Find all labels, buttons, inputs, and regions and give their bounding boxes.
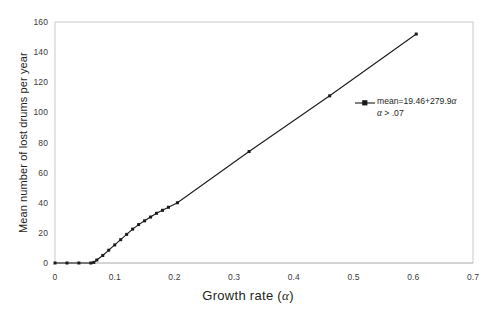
legend-condition-suffix: > .07 [382,108,404,118]
data-point-marker [54,262,57,265]
plot-frame [55,22,473,263]
legend-condition-line: α > .07 [377,108,456,119]
data-point-marker [167,206,170,209]
y-tick-label: 160 [18,17,48,27]
x-tick-label: 0.3 [228,272,240,282]
x-tick-label: 0.2 [168,272,180,282]
legend-equation-text: mean=19.46+279.9α α > .07 [377,96,456,119]
legend-alpha-symbol: α [452,96,457,106]
data-point-marker [137,223,140,226]
legend-equation-prefix: mean=19.46+279.9 [377,96,452,106]
data-point-marker [119,238,122,241]
data-point-marker [77,262,80,265]
x-axis-title: Growth rate (α) [0,288,496,304]
y-tick-label: 0 [18,258,48,268]
data-point-marker [143,219,146,222]
data-point-marker [125,233,128,236]
data-point-marker [65,262,68,265]
data-point-marker [101,254,104,257]
data-point-marker [248,150,251,153]
x-tick-label: 0.1 [109,272,121,282]
data-point-marker [113,243,116,246]
data-point-marker [149,216,152,219]
data-point-marker [155,212,158,215]
x-axis-title-close: ) [289,288,294,303]
series-polyline [55,34,416,263]
data-point-marker [89,262,92,265]
data-point-marker [95,258,98,261]
plot-area [0,0,496,316]
x-axis-title-text: Growth rate ( [202,288,282,303]
x-tick-label: 0 [53,272,58,282]
data-point-marker [161,209,164,212]
legend-equation-line: mean=19.46+279.9α [377,96,456,107]
data-series-line [54,33,418,265]
x-tick-label: 0.6 [407,272,419,282]
chart-container: 00.10.20.30.40.50.60.7 02040608010012014… [0,0,496,316]
legend: mean=19.46+279.9α α > .07 [352,96,456,119]
data-point-marker [131,228,134,231]
data-point-marker [176,201,179,204]
y-axis-title: Mean number of lost drums per year [17,63,29,233]
x-tick-label: 0.7 [467,272,479,282]
data-point-marker [328,94,331,97]
data-point-marker [92,261,95,264]
data-point-marker [107,249,110,252]
data-point-marker [415,33,418,36]
x-tick-label: 0.4 [288,272,300,282]
x-tick-label: 0.5 [348,272,360,282]
